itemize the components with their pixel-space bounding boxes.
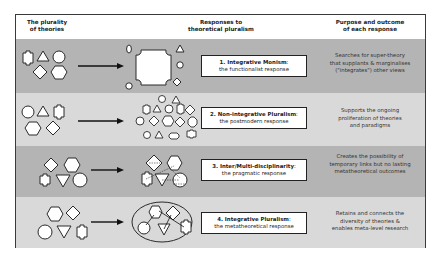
- hexagon-shape-icon: [51, 66, 67, 79]
- header-row: The plurality of theories Responses to t…: [16, 15, 425, 40]
- row-integrative-pluralism: 4. Integrative Pluralism: the metatheore…: [16, 197, 425, 248]
- header-responses: Responses to theoretical pluralism: [166, 19, 276, 33]
- outcome-non-integrative-pluralism: Supports the ongoing proliferation of th…: [316, 107, 424, 130]
- hexagon-shape-icon: [64, 158, 80, 172]
- proliferating-shapes: [136, 96, 197, 140]
- marginalised-diamond-icon: [173, 78, 181, 86]
- response-box-non-integrative-pluralism: 2. Non-integrative Pluralism: the postmo…: [201, 107, 307, 129]
- arrow-icon: [117, 63, 124, 69]
- circle-shape-icon: [38, 225, 52, 239]
- outcome-line: diversity of theories &: [316, 218, 424, 226]
- outcome-line: enables meta-level research: [316, 225, 424, 233]
- diamond-shape-icon: [33, 65, 47, 79]
- hexagon-shape-icon: [47, 207, 63, 221]
- row-integrative-monism: 1. Integrative Monism: the functionalist…: [16, 39, 425, 94]
- outcome-line: ("integrates") other views: [316, 67, 424, 75]
- outcome-line: proliferation of theories: [316, 115, 424, 123]
- header-plurality-line2: of theories: [20, 26, 74, 33]
- outcome-line: Searches for super-theory: [316, 52, 424, 60]
- diagram-frame: The plurality of theories Responses to t…: [15, 14, 426, 248]
- outcome-integrative-pluralism: Retains and connects the diversity of th…: [316, 210, 424, 233]
- response-subtitle: the postmodern response: [202, 118, 306, 125]
- diamond-shape-icon: [66, 206, 80, 220]
- supertheory-octagon-icon: [136, 50, 171, 85]
- linked-shapes: [142, 155, 187, 187]
- cross-shape-icon: [77, 225, 87, 239]
- row-non-integrative-pluralism: 2. Non-integrative Pluralism: the postmo…: [16, 93, 425, 147]
- response-box-inter-multi-disciplinarity: 3. Inter/Multi-disciplinarity: the pragm…: [201, 159, 307, 181]
- response-subtitle: the pragmatic response: [202, 170, 306, 177]
- header-purpose-line2: of each response: [316, 26, 424, 33]
- circle-shape-icon: [22, 106, 34, 118]
- header-purpose: Purpose and outcome of each response: [316, 19, 424, 33]
- arrow-icon: [117, 167, 124, 173]
- outcome-line: Supports the ongoing: [316, 107, 424, 115]
- header-responses-line2: theoretical pluralism: [166, 26, 276, 33]
- marginalised-cross-icon: [127, 45, 132, 53]
- inverted-triangle-shape-icon: [57, 226, 71, 238]
- cross-shape-icon: [40, 174, 50, 186]
- connected-shapes: [138, 206, 191, 235]
- outcome-line: and paradigms: [316, 122, 424, 130]
- header-purpose-line1: Purpose and outcome: [316, 19, 424, 26]
- outcome-line: Retains and connects the: [316, 210, 424, 218]
- outcome-line: Creates the possibility of: [316, 153, 424, 161]
- hexagon-shape-icon: [25, 122, 41, 135]
- marginalised-circle-icon: [177, 62, 183, 68]
- outcome-inter-multi-disciplinarity: Creates the possibility of temporary lin…: [316, 153, 424, 176]
- circle-shape-icon: [73, 173, 87, 187]
- response-box-integrative-pluralism: 4. Integrative Pluralism: the metatheore…: [201, 212, 307, 234]
- inverted-triangle-shape-icon: [56, 175, 70, 187]
- arrow-icon: [117, 219, 124, 225]
- row-inter-multi-disciplinarity: 3. Inter/Multi-disciplinarity: the pragm…: [16, 146, 425, 198]
- triangle-shape-icon: [37, 51, 49, 61]
- diamond-shape-icon: [46, 121, 60, 135]
- diamond-shape-icon: [44, 158, 58, 172]
- response-title: 3. Inter/Multi-disciplinarity: [212, 163, 294, 169]
- triangle-shape-icon: [37, 106, 49, 116]
- response-title: 2. Non-integrative Pluralism: [210, 111, 296, 117]
- outcome-line: temporary links but no lasting: [316, 161, 424, 169]
- circle-shape-icon: [53, 51, 65, 63]
- header-responses-line1: Responses to: [166, 19, 276, 26]
- marginalised-circle-icon: [126, 83, 132, 89]
- response-subtitle: the functionalist response: [202, 66, 306, 73]
- response-title: 1. Integrative Monism: [220, 59, 287, 65]
- response-box-integrative-monism: 1. Integrative Monism: the functionalist…: [201, 55, 307, 77]
- cross-shape-icon: [23, 51, 33, 65]
- header-plurality-line1: The plurality: [20, 19, 74, 26]
- outcome-line: metatheoretical outcomes: [316, 168, 424, 176]
- outcome-integrative-monism: Searches for super-theory that supplants…: [316, 52, 424, 75]
- cross-shape-icon: [54, 105, 64, 119]
- arrow-icon: [117, 118, 124, 124]
- response-title: 4. Integrative Pluralism: [217, 216, 289, 222]
- outcome-line: that supplants & marginalises: [316, 60, 424, 68]
- response-subtitle: the metatheoretical response: [202, 223, 306, 230]
- marginalised-triangle-icon: [176, 45, 184, 52]
- header-plurality: The plurality of theories: [20, 19, 74, 33]
